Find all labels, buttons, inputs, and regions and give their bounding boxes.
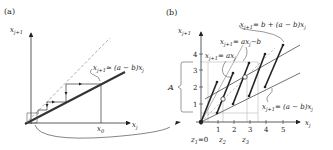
eq-mid-label: xj+1= axj−b bbox=[220, 38, 262, 48]
eq-ax-leader bbox=[222, 61, 232, 77]
svg-text:1: 1 bbox=[193, 101, 197, 109]
map-line bbox=[25, 72, 125, 124]
figure: (a) xj+1 xj x0 xj+1≈ (a − b)xj (b) bbox=[0, 0, 333, 150]
svg-text:2: 2 bbox=[193, 84, 197, 92]
eq-lower-leader bbox=[267, 88, 272, 102]
z1-label: z1=0 bbox=[190, 136, 208, 145]
connector-arrow bbox=[175, 121, 181, 125]
svg-text:4: 4 bbox=[264, 126, 269, 134]
panel-a: (a) xj+1 xj x0 xj+1≈ (a − b)xj bbox=[4, 7, 181, 138]
z3-label: z3 bbox=[241, 136, 249, 145]
cobweb-arrow bbox=[52, 101, 55, 104]
svg-text:1: 1 bbox=[216, 126, 220, 134]
panel-b-label: (b) bbox=[166, 8, 177, 17]
y-ticks: 1 2 3 4 bbox=[193, 51, 203, 109]
panel-b: (b) xj+1 xj 1 2 3 4 bbox=[166, 8, 313, 145]
svg-text:3: 3 bbox=[248, 126, 252, 134]
cobweb-arrow bbox=[65, 92, 68, 95]
set-label: A bbox=[167, 83, 174, 92]
svg-text:4: 4 bbox=[193, 51, 198, 59]
eq-lower-label: xj+1= (a − b)xj bbox=[262, 103, 313, 113]
y-axis-label: xj+1 bbox=[178, 27, 191, 37]
z2-label: z2 bbox=[218, 136, 226, 145]
svg-text:2: 2 bbox=[232, 126, 236, 134]
eq-ax-label: xj+1= axj bbox=[205, 52, 236, 62]
x-axis-label: xj bbox=[305, 119, 311, 129]
svg-text:3: 3 bbox=[193, 67, 197, 75]
panel-a-label: (a) bbox=[4, 7, 15, 16]
lower-line bbox=[201, 73, 300, 122]
cobweb-arrow bbox=[46, 104, 49, 107]
x0-label: x0 bbox=[97, 125, 105, 134]
map-line-label: xj+1≈ (a − b)xj bbox=[93, 64, 144, 74]
x-axis-label: xj bbox=[132, 121, 138, 131]
eq-upper-label: xj+1= b + (a − b)xj bbox=[240, 21, 306, 31]
y-axis-label: xj+1 bbox=[10, 26, 23, 36]
svg-text:5: 5 bbox=[281, 126, 285, 134]
cobweb-arrow bbox=[79, 83, 82, 86]
eq-mid-leader bbox=[243, 47, 247, 61]
set-bracket bbox=[178, 62, 193, 112]
